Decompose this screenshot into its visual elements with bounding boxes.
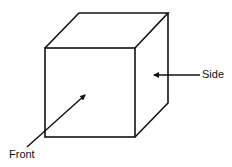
cube-top-face xyxy=(45,13,168,48)
cube-diagram: Side Front xyxy=(0,0,232,167)
cube-front-face xyxy=(45,48,135,137)
side-label: Side xyxy=(202,69,224,80)
front-arrow xyxy=(27,95,85,147)
front-label: Front xyxy=(9,149,35,160)
cube-drawing xyxy=(0,0,232,167)
